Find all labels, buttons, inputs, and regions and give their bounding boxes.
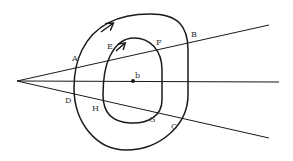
middle-ray <box>17 81 279 82</box>
label-H: H <box>92 104 99 113</box>
label-C: C <box>171 122 177 131</box>
label-E: E <box>107 42 113 51</box>
label-B: B <box>191 30 197 39</box>
diagram-canvas: A B C D E F G H b <box>0 0 293 161</box>
label-G: G <box>149 115 155 124</box>
upper-ray <box>17 25 269 81</box>
label-A: A <box>71 54 78 63</box>
lower-ray <box>17 81 269 138</box>
outer-arrow-icon <box>101 24 112 32</box>
label-F: F <box>156 38 162 47</box>
label-b: b <box>135 71 140 80</box>
label-D: D <box>65 96 71 105</box>
